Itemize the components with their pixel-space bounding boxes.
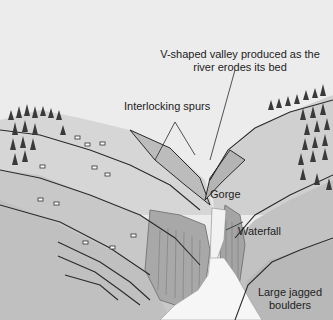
label-boulders-line1: Large jagged	[250, 286, 330, 299]
valley-diagram: V-shaped valley produced as the river er…	[0, 0, 333, 320]
label-interlocking-spurs: Interlocking spurs	[124, 100, 210, 113]
label-v-shaped-valley-line1: V-shaped valley produced as the	[150, 48, 330, 61]
label-v-shaped-valley-line2: river erodes its bed	[150, 61, 330, 74]
label-boulders-line2: boulders	[250, 299, 330, 312]
label-waterfall: Waterfall	[238, 225, 281, 238]
label-large-jagged-boulders: Large jagged boulders	[250, 286, 330, 312]
label-v-shaped-valley: V-shaped valley produced as the river er…	[150, 48, 330, 74]
label-gorge: Gorge	[210, 188, 241, 201]
